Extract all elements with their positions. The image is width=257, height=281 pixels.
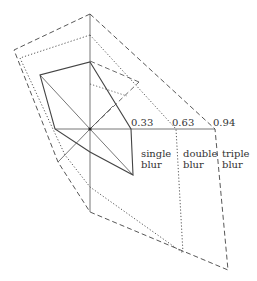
guide-line [90, 61, 139, 82]
series-label: triple blur [222, 148, 250, 170]
blur-radar-diagram [0, 0, 257, 281]
axis-spoke [90, 129, 133, 175]
scale-label: 0.33 [131, 118, 153, 128]
guide-line [90, 84, 127, 96]
series-triple-blur [14, 14, 228, 270]
series-double-blur [20, 35, 183, 253]
series-label: single blur [141, 148, 171, 170]
series-single-blur [40, 62, 133, 175]
scale-label: 0.94 [213, 118, 235, 128]
series-label: double blur [183, 148, 217, 170]
scale-label: 0.63 [172, 118, 194, 128]
center-point [88, 127, 91, 130]
